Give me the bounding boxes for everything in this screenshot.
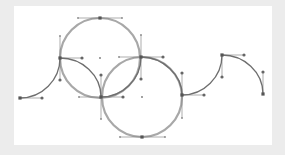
handle-point	[80, 56, 83, 59]
handle-point	[139, 77, 142, 80]
handle-tip	[59, 35, 61, 37]
anchor-point	[139, 55, 142, 58]
canvas-background	[14, 6, 272, 145]
handle-tip	[181, 117, 183, 119]
bezier-diagram	[0, 0, 285, 155]
handle-point	[161, 55, 164, 58]
handle-tip	[140, 34, 142, 36]
handle-point	[58, 78, 61, 81]
handle-tip	[121, 17, 123, 19]
handle-point	[220, 75, 223, 78]
anchor-point	[98, 16, 101, 19]
handle-point	[99, 73, 102, 76]
handle-point	[180, 71, 183, 74]
handle-tip	[164, 136, 166, 138]
handle-tip	[100, 118, 102, 120]
handle-tip	[78, 96, 80, 98]
anchor-point	[99, 95, 102, 98]
handle-point	[121, 95, 124, 98]
handle-tip	[77, 17, 79, 19]
anchor-point	[18, 96, 21, 99]
circle-center-point	[99, 57, 101, 59]
anchor-point	[140, 135, 143, 138]
anchor-point	[261, 92, 264, 95]
handle-tip	[119, 136, 121, 138]
handle-point	[202, 93, 205, 96]
handle-point	[242, 53, 245, 56]
anchor-point	[58, 56, 61, 59]
handle-point	[40, 96, 43, 99]
circle-center-point	[141, 96, 143, 98]
anchor-point	[180, 93, 183, 96]
handle-point	[261, 70, 264, 73]
anchor-point	[220, 53, 223, 56]
handle-tip	[118, 56, 120, 58]
